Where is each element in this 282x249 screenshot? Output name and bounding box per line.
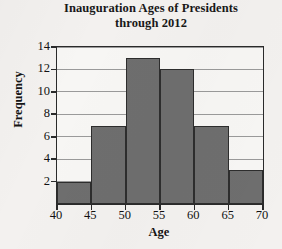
bar (229, 170, 263, 204)
y-axis-tick-label: 8 (24, 107, 50, 119)
bar (57, 182, 91, 204)
chart-title-line-2: through 2012 (26, 16, 276, 31)
bar (91, 126, 125, 205)
y-axis-tick-label: 2 (24, 175, 50, 187)
bar (126, 58, 160, 204)
bar (194, 126, 228, 205)
x-axis-tick-label: 55 (144, 208, 174, 222)
y-axis-tick-label: 10 (24, 85, 50, 97)
histogram-figure: Inauguration Ages of Presidents through … (0, 0, 282, 249)
chart-title: Inauguration Ages of Presidents through … (26, 1, 276, 31)
y-axis-tick-label: 14 (24, 40, 50, 52)
x-axis-tick-label: 65 (213, 208, 243, 222)
x-axis-tick-label: 50 (110, 208, 140, 222)
x-axis-tick-labels: 40455055606570 (56, 208, 262, 224)
y-axis-tick-label: 6 (24, 130, 50, 142)
y-axis-tick-labels: 2468101214 (18, 46, 50, 203)
bar (160, 69, 194, 204)
x-axis-tick-label: 60 (178, 208, 208, 222)
plot-area (56, 46, 264, 205)
bar-series (57, 47, 263, 204)
x-axis-tick-label: 40 (41, 208, 71, 222)
x-axis-tick-label: 45 (75, 208, 105, 222)
y-axis-tick-label: 12 (24, 62, 50, 74)
y-axis-tick-label: 4 (24, 152, 50, 164)
x-axis-tick-label: 70 (247, 208, 277, 222)
x-axis-title: Age (56, 225, 262, 240)
chart-title-line-1: Inauguration Ages of Presidents (26, 1, 276, 16)
